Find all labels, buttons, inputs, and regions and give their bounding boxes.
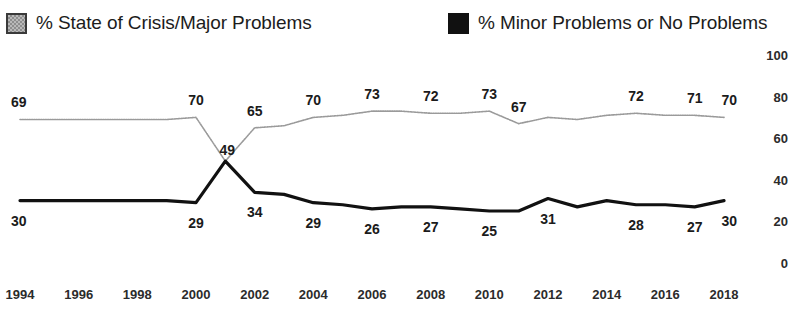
data-label-2012-31: 31 — [540, 211, 556, 227]
data-label-1994-30: 30 — [11, 213, 27, 229]
y-axis-tick-labels: 020406080100 — [766, 48, 788, 271]
x-tick-2014: 2014 — [592, 287, 622, 302]
data-label-2004-70: 70 — [306, 92, 322, 108]
x-tick-2010: 2010 — [475, 287, 504, 302]
data-label-2017-27: 27 — [687, 219, 703, 235]
x-axis-tick-labels: 1994199619982000200220042006200820102012… — [6, 287, 739, 302]
data-label-2006-26: 26 — [364, 221, 380, 237]
data-label-2008-72: 72 — [423, 88, 439, 104]
series-lines — [20, 111, 724, 211]
data-label-2001-49: 49 — [220, 142, 236, 158]
x-tick-2018: 2018 — [710, 287, 739, 302]
data-label-2004-29: 29 — [306, 215, 322, 231]
x-tick-1996: 1996 — [64, 287, 93, 302]
line-chart-plot: 020406080100 199419961998200020022004200… — [0, 0, 796, 326]
x-tick-1994: 1994 — [6, 287, 36, 302]
data-point-labels: 6970496570737273677271703029342926272531… — [11, 86, 737, 239]
x-tick-2012: 2012 — [534, 287, 563, 302]
series-line-0 — [20, 111, 724, 161]
x-tick-2006: 2006 — [358, 287, 387, 302]
data-label-2000-29: 29 — [188, 215, 204, 231]
y-tick-100: 100 — [766, 48, 788, 63]
y-tick-80: 80 — [774, 90, 788, 105]
data-label-2002-65: 65 — [247, 103, 263, 119]
data-label-1994-69: 69 — [11, 94, 27, 110]
x-tick-1998: 1998 — [123, 287, 152, 302]
data-label-2002-34: 34 — [247, 204, 263, 220]
chart-container: % State of Crisis/Major Problems % Minor… — [0, 0, 796, 326]
x-tick-2000: 2000 — [182, 287, 211, 302]
data-label-2018-30: 30 — [721, 213, 737, 229]
data-label-2010-73: 73 — [482, 86, 498, 102]
y-tick-60: 60 — [774, 131, 788, 146]
data-label-2008-27: 27 — [423, 219, 439, 235]
data-label-2010-25: 25 — [482, 223, 498, 239]
data-label-2018-70: 70 — [721, 92, 737, 108]
data-label-2006-73: 73 — [364, 86, 380, 102]
y-tick-20: 20 — [774, 214, 788, 229]
x-tick-2016: 2016 — [651, 287, 680, 302]
y-tick-0: 0 — [781, 256, 788, 271]
data-label-2017-71: 71 — [687, 90, 703, 106]
x-tick-2004: 2004 — [299, 287, 329, 302]
data-label-2015-72: 72 — [628, 88, 644, 104]
x-tick-2008: 2008 — [416, 287, 445, 302]
data-label-2011-67: 67 — [511, 99, 527, 115]
y-tick-40: 40 — [774, 173, 788, 188]
series-line-1 — [20, 161, 724, 211]
data-label-2000-70: 70 — [188, 92, 204, 108]
x-tick-2002: 2002 — [240, 287, 269, 302]
data-label-2015-28: 28 — [628, 217, 644, 233]
